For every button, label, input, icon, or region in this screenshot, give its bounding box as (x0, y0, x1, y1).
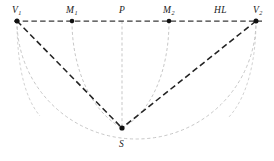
point-marker-m1 (70, 19, 75, 24)
label-m1-sub: 1 (74, 9, 77, 16)
measuring-arc-m2 (122, 21, 169, 128)
label-m2: M2 (163, 6, 174, 16)
point-marker-s (119, 125, 124, 130)
main-semicircle-arc (17, 21, 256, 139)
perspective-diagram: V1 M1 P M2 HL V2 S (0, 0, 274, 161)
point-marker-v1 (15, 19, 20, 24)
label-p-text: P (119, 5, 125, 15)
label-m2-sub: 2 (171, 9, 174, 16)
measuring-arc-m1 (72, 21, 122, 128)
label-v2-sub: 2 (259, 9, 262, 16)
diagram-canvas (0, 0, 274, 161)
inner-arc-left (17, 21, 40, 116)
label-m1-text: M (66, 5, 74, 15)
label-m1: M1 (66, 6, 77, 16)
ray-v2-to-s (122, 21, 256, 128)
label-v2: V2 (253, 6, 262, 16)
label-m2-text: M (163, 5, 171, 15)
point-marker-m2 (167, 19, 172, 24)
inner-arc-right (228, 21, 256, 118)
label-p: P (119, 6, 125, 16)
label-horizon-line: HL (214, 6, 227, 16)
label-s: S (119, 140, 124, 150)
label-v1: V1 (12, 6, 21, 16)
ray-v1-to-s (17, 21, 122, 128)
label-s-text: S (119, 139, 124, 149)
label-v1-sub: 1 (18, 9, 21, 16)
point-marker-v2 (254, 19, 259, 24)
